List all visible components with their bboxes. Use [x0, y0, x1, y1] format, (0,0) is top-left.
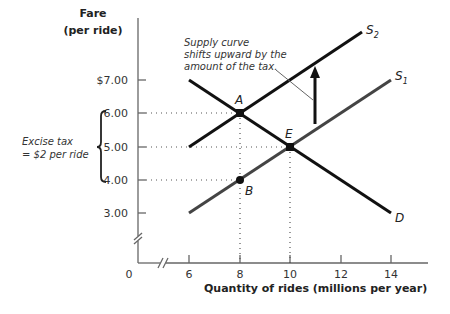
- s1-label: S1: [395, 69, 408, 86]
- y-tick-label: $7.00: [97, 74, 129, 87]
- y-tick-label: 3.00: [104, 207, 129, 220]
- point-b-marker: [236, 176, 244, 184]
- x-tick-label: 6: [186, 268, 193, 281]
- tax-incidence-chart: Fare (per ride) Quantity of rides (milli…: [0, 0, 450, 314]
- y-tick-label: 5.00: [104, 141, 129, 154]
- arrow-up-icon: [310, 66, 320, 78]
- s2-label: S2: [366, 23, 379, 40]
- x-axis-title: Quantity of rides (millions per year): [204, 282, 427, 295]
- y-axis-title-line2: (per ride): [63, 24, 122, 37]
- point-a-label: A: [234, 93, 243, 107]
- tax-note-line2: = $2 per ride: [22, 149, 89, 160]
- shift-note-line3: amount of the tax.: [184, 61, 277, 72]
- x-tick-label: 12: [334, 268, 348, 281]
- point-e-marker: [286, 143, 294, 151]
- y-tick-label: 6.00: [104, 107, 129, 120]
- x-tick-label: 8: [237, 268, 244, 281]
- shift-note-line2: shifts upward by the: [184, 49, 287, 60]
- x-tick-labels: 0 6 8 10 12 14: [126, 268, 399, 281]
- y-tick-labels: $7.00 6.00 5.00 4.00 3.00: [97, 74, 129, 220]
- y-axis-title-line1: Fare: [79, 7, 106, 20]
- x-tick-label: 0: [126, 268, 133, 281]
- point-a-marker: [236, 109, 244, 117]
- x-tick-label: 14: [384, 268, 398, 281]
- tax-note-line1: Excise tax: [22, 136, 73, 147]
- point-b-label: B: [245, 184, 253, 198]
- x-tick-label: 10: [283, 268, 297, 281]
- d-label: D: [395, 211, 404, 225]
- y-tick-label: 4.00: [104, 174, 129, 187]
- equilibrium-points: [236, 109, 294, 184]
- guide-lines: [146, 113, 290, 263]
- shift-note-line1: Supply curve: [184, 37, 249, 48]
- point-e-label: E: [285, 127, 293, 141]
